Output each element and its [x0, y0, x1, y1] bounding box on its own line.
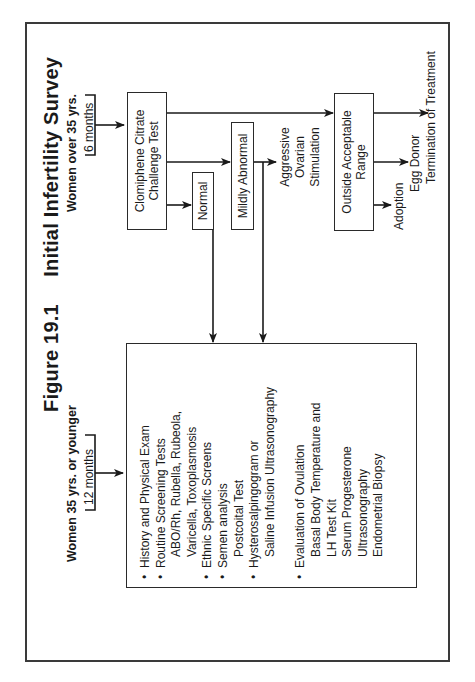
- node-clomiphene-citrate-challenge-test: Clomiphene Citrate Challenge Test: [127, 92, 167, 230]
- list-item: •Hysterosalpingogram or: [247, 349, 263, 579]
- bullet-icon: •: [247, 568, 263, 579]
- duration-label-12-months: 12 months: [82, 449, 96, 505]
- bullet-icon: •: [216, 568, 232, 579]
- node-outside-acceptable-range: Outside Acceptable Range: [334, 93, 374, 231]
- bullet-icon: •: [138, 568, 154, 579]
- group-label-older: Women over 35 yrs.: [65, 94, 79, 212]
- survey-list: •History and Physical Exam•Routine Scree…: [138, 349, 387, 579]
- list-subitem: Saline Infusion Ultrasonography: [263, 349, 279, 579]
- list-item-text: Ultrasonography: [356, 469, 370, 557]
- list-spacer: [278, 349, 293, 579]
- list-item-text: Routine Screening Tests: [154, 438, 168, 568]
- figure-title: Figure 19.1 Initial Infertility Survey: [40, 57, 63, 412]
- outside-line1: Outside Acceptable: [340, 110, 354, 213]
- node-normal: Normal: [192, 172, 214, 230]
- bullet-icon: •: [154, 568, 170, 579]
- list-item-text: Semen analysis: [216, 483, 230, 568]
- rotated-figure-stage: Figure 19.1 Initial Infertility Survey W…: [0, 0, 475, 682]
- list-subitem: LH Test Kit: [325, 349, 341, 579]
- aggressive-line2: Ovarian: [293, 102, 308, 212]
- list-item-text: Ethnic Specific Screens: [200, 442, 214, 568]
- cct-line1: Clomiphene Citrate: [133, 110, 147, 213]
- mildly-abnormal-label: Mildly Abnormal: [236, 134, 250, 219]
- list-item-text: Postcoital Test: [232, 480, 246, 557]
- bullet-icon: •: [200, 568, 216, 579]
- list-item: •Semen analysis: [216, 349, 232, 579]
- normal-label: Normal: [196, 182, 210, 221]
- figure-title-text: Initial Infertility Survey: [40, 57, 62, 277]
- list-item: •Evaluation of Ovulation: [293, 349, 309, 579]
- list-item: •History and Physical Exam: [138, 349, 154, 579]
- list-item-text: Serum Progesterone: [340, 446, 354, 557]
- cct-line2: Challenge Test: [147, 121, 161, 200]
- node-mildly-abnormal: Mildly Abnormal: [231, 122, 254, 230]
- outside-line2: Range: [354, 144, 368, 179]
- list-item-text: Varicella, Toxoplasmosis: [185, 427, 199, 557]
- list-subitem: Postcoital Test: [232, 349, 248, 579]
- node-aggressive-ovarian-stimulation: Aggressive Ovarian Stimulation: [278, 102, 323, 212]
- list-subitem: ABO/Rh, Rubella, Rubeola,: [169, 349, 185, 579]
- list-item: •Routine Screening Tests: [154, 349, 170, 579]
- list-subitem: Varicella, Toxoplasmosis: [185, 349, 201, 579]
- list-item: •Ethnic Specific Screens: [200, 349, 216, 579]
- list-subitem: Endometrial Biopsy: [371, 349, 387, 579]
- outcome-adoption: Adoption: [392, 183, 406, 230]
- list-item-text: LH Test Kit: [325, 499, 339, 557]
- aggressive-line1: Aggressive: [278, 102, 293, 212]
- list-subitem: Ultrasonography: [356, 349, 372, 579]
- list-item-text: Evaluation of Ovulation: [293, 445, 307, 568]
- list-item-text: Hysterosalpingogram or: [247, 441, 261, 568]
- list-item-text: Saline Infusion Ultrasonography: [263, 387, 277, 557]
- group-label-younger: Women 35 yrs. or younger: [65, 405, 79, 562]
- outcome-egg-donor: Egg Donor: [408, 135, 422, 192]
- outcome-termination-of-treatment: Termination of Treatment: [424, 51, 438, 184]
- aggressive-line3: Stimulation: [308, 102, 323, 212]
- list-item-text: ABO/Rh, Rubella, Rubeola,: [169, 411, 183, 557]
- bullet-icon: •: [293, 568, 309, 579]
- duration-label-6-months: 6 months: [82, 103, 96, 152]
- list-item-text: History and Physical Exam: [138, 425, 152, 568]
- list-subitem: Serum Progesterone: [340, 349, 356, 579]
- list-item-text: Basal Body Temperature and: [309, 402, 323, 557]
- figure-number: Figure 19.1: [40, 304, 62, 412]
- list-item-text: Endometrial Biopsy: [371, 454, 385, 557]
- list-subitem: Basal Body Temperature and: [309, 349, 325, 579]
